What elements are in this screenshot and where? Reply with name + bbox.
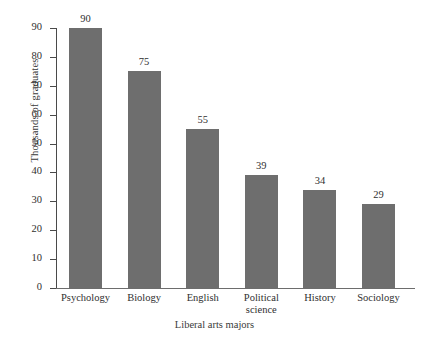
y-tick-mark: [50, 259, 56, 260]
bar: [186, 129, 219, 288]
y-tick-mark: [50, 144, 56, 145]
y-tick-mark: [50, 86, 56, 87]
y-tick-label: 50: [18, 137, 42, 148]
y-tick-mark: [50, 57, 56, 58]
bar-value-label: 34: [300, 175, 340, 186]
bar: [362, 204, 395, 288]
y-tick-label: 20: [18, 223, 42, 234]
bar-value-label: 55: [183, 114, 223, 125]
bar-value-label: 39: [241, 160, 281, 171]
y-tick-label: 90: [18, 21, 42, 32]
bar: [128, 71, 161, 288]
bar-value-label: 29: [359, 189, 399, 200]
y-tick-label: 10: [18, 252, 42, 263]
y-tick-label: 30: [18, 194, 42, 205]
bar-value-label: 90: [66, 13, 106, 24]
y-tick-label: 60: [18, 108, 42, 119]
y-tick-mark: [50, 288, 56, 289]
x-axis-title: Liberal arts majors: [0, 319, 429, 330]
y-tick-mark: [50, 201, 56, 202]
bar: [245, 175, 278, 288]
bar-value-label: 75: [124, 56, 164, 67]
y-tick-label: 0: [18, 281, 42, 292]
bar: [303, 190, 336, 288]
x-tick-label: Sociology: [341, 292, 417, 304]
bar-chart: Thousands of graduates 01020304050607080…: [0, 0, 429, 347]
y-tick-mark: [50, 230, 56, 231]
x-axis-line: [56, 288, 415, 289]
y-tick-mark: [50, 172, 56, 173]
y-tick-label: 40: [18, 165, 42, 176]
bar: [69, 28, 102, 288]
y-tick-label: 80: [18, 50, 42, 61]
y-tick-mark: [50, 115, 56, 116]
y-tick-label: 70: [18, 79, 42, 90]
y-axis-line: [56, 28, 57, 288]
y-tick-mark: [50, 28, 56, 29]
